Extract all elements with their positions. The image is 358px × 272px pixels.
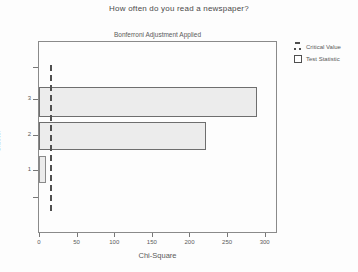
chart-subtitle: Bonferroni Adjustment Applied bbox=[38, 31, 277, 38]
y-tick-label: 2 bbox=[20, 131, 31, 137]
chart-title: How often do you read a newspaper? bbox=[0, 4, 358, 13]
tick-mark bbox=[265, 233, 266, 237]
x-tick-label: 200 bbox=[184, 239, 194, 245]
tick-mark bbox=[77, 233, 78, 237]
legend-label: Critical Value bbox=[306, 44, 341, 50]
x-tick-label: 150 bbox=[147, 239, 157, 245]
y-tick-label: 1 bbox=[20, 166, 31, 172]
x-tick-label: 50 bbox=[73, 239, 80, 245]
dashed-line-icon bbox=[294, 42, 302, 51]
bar-cluster-3 bbox=[39, 87, 257, 117]
x-tick-label: 100 bbox=[109, 239, 119, 245]
y-tick bbox=[33, 170, 38, 171]
y-minor-tick bbox=[33, 67, 38, 68]
legend: Critical Value Test Statistic bbox=[294, 42, 341, 67]
legend-item-test-statistic: Test Statistic bbox=[294, 55, 341, 63]
x-axis: 0 50 100 150 200 250 300 bbox=[39, 233, 278, 249]
x-axis-title: Chi-Square bbox=[38, 251, 277, 260]
bar-cluster-2 bbox=[39, 122, 206, 150]
tick-mark bbox=[227, 233, 228, 237]
y-tick bbox=[33, 99, 38, 100]
y-tick bbox=[33, 135, 38, 136]
x-tick-label: 300 bbox=[260, 239, 270, 245]
plot-area bbox=[38, 41, 277, 233]
chart-window: How often do you read a newspaper? Bonfe… bbox=[0, 0, 358, 272]
y-tick-label: 3 bbox=[20, 95, 31, 101]
y-minor-tick bbox=[33, 197, 38, 198]
x-tick-label: 250 bbox=[222, 239, 232, 245]
x-tick-label: 0 bbox=[37, 239, 40, 245]
tick-mark bbox=[189, 233, 190, 237]
legend-label: Test Statistic bbox=[306, 56, 340, 62]
tick-mark bbox=[152, 233, 153, 237]
bar-cluster-1 bbox=[39, 156, 46, 183]
open-square-icon bbox=[294, 55, 302, 63]
y-axis-title: Cluster bbox=[0, 140, 32, 152]
tick-mark bbox=[39, 233, 40, 237]
critical-value-line bbox=[50, 65, 52, 211]
legend-item-critical-value: Critical Value bbox=[294, 42, 341, 51]
tick-mark bbox=[114, 233, 115, 237]
